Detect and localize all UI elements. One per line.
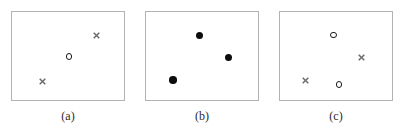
panel-c-open-circle-bottom-icon <box>336 81 343 88</box>
panel-c-caption: (c) <box>296 109 376 124</box>
figure-container: (a)(b)(c) <box>0 0 404 132</box>
panel-c: (c) <box>0 0 404 132</box>
panel-c-cross-bottom-left-icon <box>302 77 309 84</box>
panel-c-cross-right-icon <box>358 54 365 61</box>
panel-c-open-circle-top-icon <box>330 32 337 39</box>
panel-c-box <box>279 11 393 101</box>
